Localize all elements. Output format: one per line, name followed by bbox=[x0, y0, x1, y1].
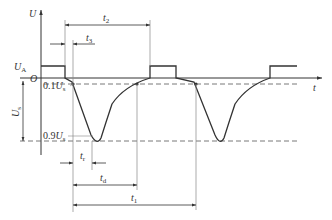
t1-dimension: t1 bbox=[73, 192, 196, 205]
high-level-label: UA bbox=[14, 61, 26, 74]
pulse-timing-diagram: U t O UA 0.1Us 0.9Us Us t2 t3 bbox=[0, 0, 332, 220]
tr-label: tr bbox=[80, 150, 86, 163]
pulse-waveform bbox=[41, 66, 297, 141]
amplitude-label: Us bbox=[10, 107, 23, 117]
t3-label: t3 bbox=[86, 32, 93, 45]
origin-label: O bbox=[30, 73, 37, 84]
tr-dimension: tr bbox=[60, 150, 106, 163]
tenth-level-label: 0.1Us bbox=[43, 80, 66, 93]
t2-dimension: t2 bbox=[65, 12, 150, 25]
x-axis-label: t bbox=[313, 82, 316, 93]
y-axis-label: U bbox=[29, 8, 37, 19]
td-label: td bbox=[100, 172, 107, 185]
amplitude-dimension: Us bbox=[10, 81, 23, 141]
t3-dimension: t3 bbox=[50, 32, 95, 45]
t1-label: t1 bbox=[131, 192, 138, 205]
td-dimension: td bbox=[73, 172, 137, 185]
t2-label: t2 bbox=[103, 12, 110, 25]
